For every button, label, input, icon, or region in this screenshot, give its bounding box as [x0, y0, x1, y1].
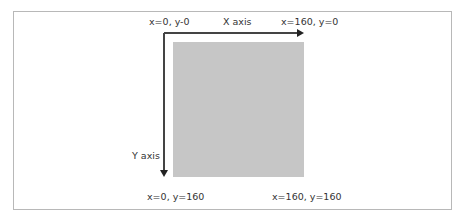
gray-square: [173, 42, 304, 177]
x-axis-line: [164, 32, 298, 34]
bottom-right-corner-label: x=160, y=160: [272, 191, 341, 203]
x-axis-label: X axis: [223, 16, 252, 28]
y-axis-label: Y axis: [132, 150, 160, 162]
x-axis-arrow-icon: [297, 29, 304, 37]
y-axis-arrow-icon: [160, 170, 168, 177]
top-left-corner-label: x=0, y-0: [149, 16, 190, 28]
bottom-left-corner-label: x=0, y=160: [147, 191, 204, 203]
top-right-corner-label: x=160, y=0: [281, 16, 338, 28]
y-axis-line: [163, 33, 165, 171]
